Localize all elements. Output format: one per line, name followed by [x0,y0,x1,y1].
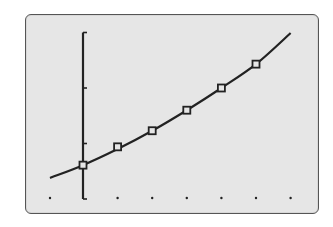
x-tick-dot [186,197,188,199]
data-point-marker [114,143,121,150]
fitted-curve [50,33,291,178]
data-point-marker [218,85,225,92]
x-tick-dot [116,197,118,199]
x-tick-dot [49,197,51,199]
data-point-marker [183,107,190,114]
data-point-marker [253,61,260,68]
x-tick-dot [220,197,222,199]
data-point-marker [80,162,87,169]
plot-area [0,0,333,227]
x-tick-dot [255,197,257,199]
x-tick-dot [289,197,291,199]
data-point-marker [149,127,156,134]
x-tick-dot [151,197,153,199]
